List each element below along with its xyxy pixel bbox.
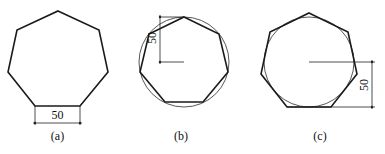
caption-b: (b) [174, 129, 188, 143]
arrow-tick-bottom-c [371, 106, 373, 108]
dimension-label-a: 50 [52, 108, 64, 122]
heptagon-c [261, 13, 357, 107]
heptagon-diagram: 50 (a) 50 (b) 50 (c) [0, 0, 385, 154]
dimension-label-c: 50 [357, 79, 371, 91]
caption-c: (c) [313, 129, 326, 143]
arrow-tick-top-b [159, 16, 161, 18]
heptagon-a [8, 11, 108, 106]
arrow-tick-bottom-b [159, 61, 161, 63]
figure-b: 50 (b) [139, 15, 229, 143]
dimension-label-b: 50 [145, 32, 159, 44]
figure-a: 50 (a) [8, 11, 108, 143]
arrow-tick-right [79, 122, 81, 124]
arrow-tick-top-c [371, 61, 373, 63]
caption-a: (a) [51, 129, 64, 143]
figure-c: 50 (c) [261, 13, 375, 143]
arrow-tick-left [34, 122, 36, 124]
